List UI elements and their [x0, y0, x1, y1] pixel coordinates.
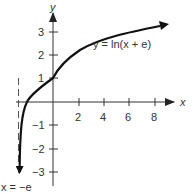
x-tick-label: 2 — [75, 111, 81, 123]
x-tick-label: 8 — [151, 111, 157, 123]
y-tick-label: 2 — [38, 49, 44, 61]
y-tick-label: −1 — [32, 119, 45, 131]
x-tick-label: 4 — [100, 111, 106, 123]
function-label: y = ln(x + e) — [93, 38, 151, 50]
y-tick-label: −2 — [32, 143, 45, 155]
y-tick-label: 3 — [38, 26, 44, 38]
graph: 2 4 6 8 3 2 1 −1 −2 −3 x y y = ln(x + e)… — [0, 0, 193, 194]
function-arrow-head-right — [159, 21, 169, 30]
x-axis-label: x — [179, 96, 186, 108]
asymptote-label: x = −e — [1, 181, 32, 193]
y-tick-label: −3 — [32, 166, 45, 178]
x-tick-label: 6 — [125, 111, 131, 123]
y-axis-label: y — [49, 1, 57, 13]
y-tick-label: 1 — [38, 72, 44, 84]
